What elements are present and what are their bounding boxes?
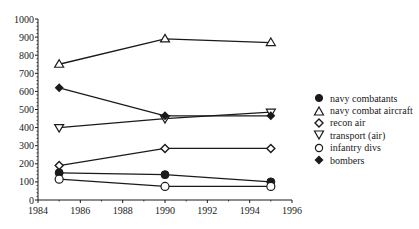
legend-item-navy-combatants: navy combatants: [313, 92, 413, 104]
y-tick-label: 600: [19, 86, 34, 97]
legend-label: transport (air): [330, 130, 385, 141]
legend-label: recon air: [330, 117, 365, 128]
legend-item-recon-air: recon air: [313, 117, 413, 129]
y-tick-label: 900: [19, 32, 34, 43]
open-triangle-up-marker: [161, 34, 170, 42]
y-tick-label: 800: [19, 50, 34, 61]
series-line: [59, 39, 271, 64]
y-tick-label: 1000: [14, 14, 34, 25]
legend-item-infantry-divs: infantry divs: [313, 142, 413, 154]
legend-label: navy combatants: [330, 93, 397, 104]
legend: navy combatants navy combat aircraft rec…: [313, 92, 413, 166]
open-circle-marker: [161, 182, 169, 190]
open-circle-marker: [55, 175, 63, 183]
x-tick-label: 1996: [282, 205, 302, 216]
filled-diamond-icon: [313, 155, 325, 165]
filled-circle-icon: [313, 93, 325, 103]
legend-label: navy combat aircraft: [330, 105, 413, 116]
y-tick-label: 300: [19, 140, 34, 151]
x-tick-label: 1988: [113, 205, 133, 216]
x-tick-label: 1992: [197, 205, 217, 216]
x-tick-label: 1994: [240, 205, 260, 216]
y-tick-label: 400: [19, 122, 34, 133]
x-tick-label: 1984: [28, 205, 48, 216]
open-triangle-down-icon: [313, 130, 325, 140]
y-tick-label: 500: [19, 104, 34, 115]
open-diamond-marker: [267, 144, 275, 152]
open-triangle-up-icon: [313, 106, 325, 116]
legend-label: infantry divs: [330, 142, 381, 153]
open-circle-icon: [313, 143, 325, 153]
legend-item-navy-combat-aircraft: navy combat aircraft: [313, 104, 413, 116]
x-tick-label: 1990: [155, 205, 175, 216]
y-tick-label: 700: [19, 68, 34, 79]
x-tick-label: 1986: [70, 205, 90, 216]
open-diamond-marker: [55, 162, 63, 170]
open-diamond-icon: [313, 118, 325, 128]
legend-label: bombers: [330, 155, 364, 166]
filled-circle-marker: [161, 171, 169, 179]
filled-diamond-marker: [55, 83, 64, 92]
y-tick-label: 100: [19, 176, 34, 187]
open-triangle-down-marker: [55, 125, 64, 133]
legend-item-transport-air: transport (air): [313, 129, 413, 141]
y-tick-label: 0: [29, 195, 34, 206]
open-circle-marker: [267, 182, 275, 190]
legend-item-bombers: bombers: [313, 154, 413, 166]
y-tick-label: 200: [19, 158, 34, 169]
open-diamond-marker: [161, 144, 169, 152]
